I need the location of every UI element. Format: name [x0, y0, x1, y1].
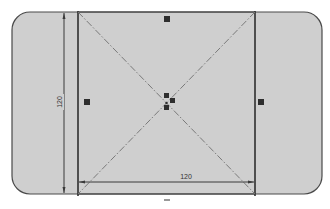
vertical-dimension-label[interactable]: 120	[56, 96, 63, 108]
center-point[interactable]	[165, 102, 167, 104]
sketch-canvas[interactable]: 120 120	[0, 0, 330, 209]
center-handle-top[interactable]	[164, 93, 169, 98]
center-handle-right[interactable]	[170, 98, 175, 103]
horizontal-dimension-label[interactable]: 120	[180, 173, 192, 180]
top-edge-handle[interactable]	[164, 16, 170, 22]
left-edge-handle[interactable]	[84, 99, 90, 105]
center-handle-bottom[interactable]	[164, 105, 169, 110]
right-edge-handle[interactable]	[258, 99, 264, 105]
